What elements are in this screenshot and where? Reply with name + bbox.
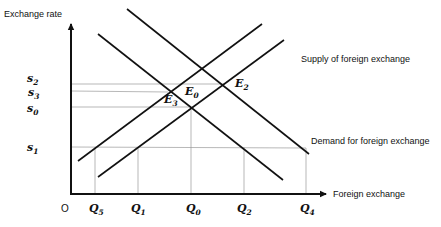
demand-curve-d2 <box>127 9 309 154</box>
guide-s3 <box>71 91 168 92</box>
quantity-label-q0: Q0 <box>186 202 202 217</box>
demand-label: Demand for foreign exchange <box>311 136 430 146</box>
quantity-label-q1: Q1 <box>131 202 146 217</box>
quantity-label-q5: Q5 <box>89 202 104 217</box>
equilibrium-label-e0: E0 <box>184 85 199 100</box>
price-label-s2: s2 <box>27 72 38 87</box>
price-label-s1: s1 <box>27 141 38 156</box>
price-label-s0: s0 <box>27 102 39 117</box>
guide-s1 <box>71 147 306 148</box>
price-label-s3: s3 <box>28 86 39 101</box>
quantity-label-q2: Q2 <box>237 202 252 217</box>
exchange-rate-diagram: Exchange rate Foreign exchange O Supply … <box>0 0 441 227</box>
x-axis-label: Foreign exchange <box>333 189 405 199</box>
supply-label: Supply of foreign exchange <box>301 54 410 64</box>
quantity-label-q4: Q4 <box>300 202 315 217</box>
equilibrium-label-e2: E2 <box>234 77 249 92</box>
origin-label: O <box>61 203 69 214</box>
y-axis-label: Exchange rate <box>4 9 62 19</box>
quantity-guides <box>95 107 306 194</box>
